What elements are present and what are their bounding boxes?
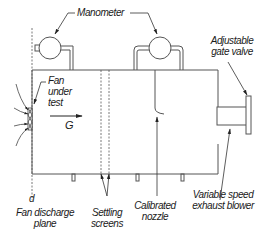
nozzle-label-line1: Calibrated <box>130 200 180 211</box>
discharge-plane-label-line1: Fan discharge <box>10 207 80 218</box>
manometer-right <box>134 37 183 70</box>
calibrated-nozzle <box>155 70 164 114</box>
leader-manometer-left <box>55 13 75 34</box>
diagram-canvas: Manometer Adjustable gate valve Fan unde… <box>0 0 266 244</box>
nozzle-label: Calibrated nozzle <box>130 200 180 222</box>
leader-screen-1 <box>101 174 107 196</box>
settling-screens <box>101 70 109 174</box>
settling-screens-label: Settling screens <box>84 207 130 229</box>
blower-label: Variable speed exhaust blower <box>182 189 264 211</box>
gate-valve-label-line2: gate valve <box>200 46 264 57</box>
discharge-plane-label-line2: plane <box>10 218 80 229</box>
fan-label-line1: Fan <box>48 75 72 86</box>
nozzle-label-line2: nozzle <box>130 211 180 222</box>
leader-manometer-right <box>130 13 157 34</box>
manometer-label: Manometer <box>77 7 124 18</box>
fan-label-line2: under <box>48 86 72 97</box>
fan-label: Fan under test <box>48 75 72 108</box>
blower-label-line1: Variable speed <box>182 189 264 200</box>
fan-label-line3: test <box>48 97 72 108</box>
gate-valve <box>246 96 251 134</box>
gate-valve-label: Adjustable gate valve <box>200 35 264 57</box>
blower-label-line2: exhaust blower <box>182 200 264 211</box>
leader-gate-valve <box>228 62 247 95</box>
leader-screen-2 <box>107 174 109 196</box>
fan-under-test <box>14 84 32 146</box>
exhaust-blower <box>217 107 247 125</box>
flow-label: G <box>65 120 73 131</box>
plane-symbol-label: d <box>29 193 34 204</box>
gate-valve-label-line1: Adjustable <box>200 35 264 46</box>
discharge-plane-label: Fan discharge plane <box>10 207 80 229</box>
settling-screens-label-line1: Settling <box>84 207 130 218</box>
settling-screens-label-line2: screens <box>84 218 130 229</box>
manometer-left <box>35 37 73 70</box>
